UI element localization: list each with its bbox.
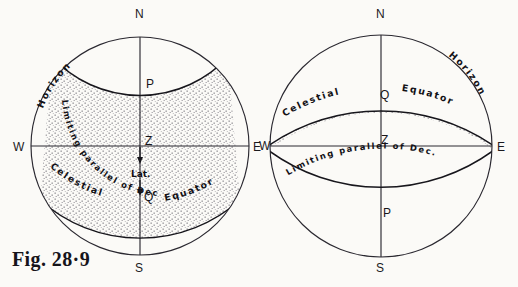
diagram-right: N S W E Q Z P Horizon Celestial Equator … xyxy=(259,7,510,275)
right-label-west: W xyxy=(259,139,271,153)
right-label-south: S xyxy=(376,261,384,275)
right-label-east: E xyxy=(497,140,505,154)
diagram-left: Lat. N S W E P Z Q Horizon Limiting para… xyxy=(0,0,270,275)
figure-container: Lat. N S W E P Z Q Horizon Limiting para… xyxy=(0,0,518,287)
celestial-sphere-diagram-svg: Lat. N S W E P Z Q Horizon Limiting para… xyxy=(0,0,518,287)
left-latitude-label: Lat. xyxy=(131,169,151,179)
left-label-west: W xyxy=(13,140,25,154)
right-horizon-label: Horizon xyxy=(447,49,489,97)
figure-caption: Fig. 28·9 xyxy=(12,248,90,271)
left-label-zenith: Z xyxy=(145,134,152,148)
right-equator-label: Equator xyxy=(401,82,456,107)
left-label-north: N xyxy=(135,7,144,21)
right-label-pole: P xyxy=(383,206,391,220)
right-label-q: Q xyxy=(380,88,389,102)
left-label-south: S xyxy=(135,261,143,275)
right-celestial-label: Celestial xyxy=(280,85,341,118)
left-label-pole: P xyxy=(146,77,154,91)
right-label-north: N xyxy=(376,7,385,21)
